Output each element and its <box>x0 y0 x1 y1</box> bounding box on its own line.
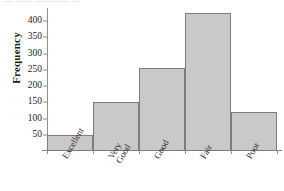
x-tick-mark <box>139 150 140 154</box>
y-axis-title: Frequency <box>10 10 22 106</box>
x-tick-mark <box>185 150 186 154</box>
y-tick-mark <box>43 53 47 54</box>
y-tick-mark <box>43 69 47 70</box>
bar <box>185 13 231 151</box>
y-tick-mark <box>43 102 47 103</box>
x-tick-mark <box>93 150 94 154</box>
x-tick-mark <box>47 150 48 154</box>
y-tick-mark <box>43 86 47 87</box>
y-tick-mark <box>43 21 47 22</box>
bar-chart-figure: — —— ———— — Frequency 501001502002503003… <box>0 0 284 191</box>
y-tick-mark <box>43 37 47 38</box>
clipped-header-text: — —— ———— — <box>4 0 154 3</box>
x-tick-mark <box>231 150 232 154</box>
y-tick-mark <box>43 118 47 119</box>
x-tick-mark <box>277 150 278 154</box>
